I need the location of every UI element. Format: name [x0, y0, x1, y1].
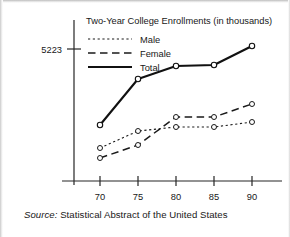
series-male-point-80: [174, 125, 179, 130]
series-total-point-75: [135, 76, 140, 81]
series-male: [98, 120, 255, 151]
series-male-point-85: [212, 125, 217, 130]
chart-canvas: 5223 70 75 80 85 90 Two-Year College Enr…: [0, 0, 290, 200]
x-tick-label-80: 80: [171, 192, 181, 200]
source-note: Source: Statistical Abstract of the Unit…: [24, 209, 286, 220]
series-male-point-75: [136, 129, 141, 134]
line-chart: 5223 70 75 80 85 90 Two-Year College Enr…: [0, 0, 290, 200]
series-male-point-90: [250, 120, 255, 125]
series-total-line: [100, 46, 252, 125]
series-male-point-70: [98, 146, 103, 151]
x-tick-label-90: 90: [247, 192, 257, 200]
chart-legend: Male Female Total: [88, 35, 171, 73]
legend-item-female: Female: [88, 49, 171, 59]
series-total-point-85: [211, 62, 216, 67]
legend-item-total: Total: [88, 63, 160, 73]
x-tick-label-70: 70: [95, 192, 105, 200]
series-female-point-75: [136, 143, 141, 148]
legend-label-male: Male: [140, 35, 160, 45]
series-female-point-70: [98, 156, 103, 161]
source-text: Statistical Abstract of the United State…: [60, 209, 227, 220]
series-total-point-90: [249, 43, 254, 48]
legend-item-male: Male: [88, 35, 160, 45]
legend-label-total: Total: [140, 63, 160, 73]
series-female-point-85: [212, 115, 217, 120]
series-total-point-80: [173, 63, 178, 68]
series-female: [98, 102, 255, 161]
x-axis-tick-group: 70 75 80 85 90: [95, 176, 257, 200]
x-tick-label-85: 85: [209, 192, 219, 200]
x-tick-label-75: 75: [133, 192, 143, 200]
series-total-point-70: [97, 122, 102, 127]
chart-title: Two-Year College Enrollments (in thousan…: [86, 16, 272, 26]
legend-label-female: Female: [140, 49, 171, 59]
series-female-line: [100, 104, 252, 158]
y-axis-tick-group: 5223: [41, 45, 81, 55]
series-female-point-90: [250, 102, 255, 107]
source-label: Source:: [24, 209, 57, 220]
y-tick-label-5223: 5223: [41, 45, 62, 55]
chart-figure: 5223 70 75 80 85 90 Two-Year College Enr…: [0, 0, 290, 237]
series-female-point-80: [174, 115, 179, 120]
